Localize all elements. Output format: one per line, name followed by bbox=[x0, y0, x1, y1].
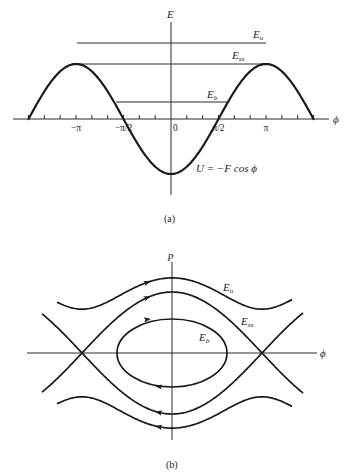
phi-axis-label-b: ϕ bbox=[320, 347, 326, 359]
label-e-u-b: Eu bbox=[222, 281, 234, 295]
label-e-b-b: Eb bbox=[198, 331, 210, 345]
momentum-axis-label: p bbox=[167, 249, 174, 261]
label-e-u-a: Eu bbox=[252, 28, 264, 42]
phi-tick-labels: −π−π/20π/2π bbox=[71, 123, 269, 133]
tick-label: −π bbox=[71, 123, 81, 133]
label-e-sx-b: Esx bbox=[240, 315, 254, 329]
panel-a: E ϕ −π−π/20π/2π Eu Esx Eb U = −F cos ϕ (… bbox=[13, 8, 339, 225]
tick-label: 0 bbox=[173, 123, 178, 133]
label-e-b-a: Eb bbox=[206, 88, 218, 102]
arrow-right-icon bbox=[143, 279, 151, 286]
figure: E ϕ −π−π/20π/2π Eu Esx Eb U = −F cos ϕ (… bbox=[0, 0, 347, 476]
orbit-e-u-upper bbox=[57, 278, 292, 309]
label-e-sx-a: Esx bbox=[231, 49, 245, 63]
caption-b: (b) bbox=[166, 459, 178, 471]
phi-axis-label-a: ϕ bbox=[333, 113, 339, 125]
arrow-right-icon bbox=[143, 294, 152, 302]
tick-label: π bbox=[264, 123, 269, 133]
potential-curve-label: U = −F cos ϕ bbox=[196, 162, 257, 174]
panel-b: p ϕ Eu Esx Eb (b) bbox=[27, 249, 326, 471]
caption-a: (a) bbox=[164, 213, 175, 225]
energy-axis-label: E bbox=[166, 8, 174, 20]
orbit-e-u-lower bbox=[57, 397, 292, 428]
